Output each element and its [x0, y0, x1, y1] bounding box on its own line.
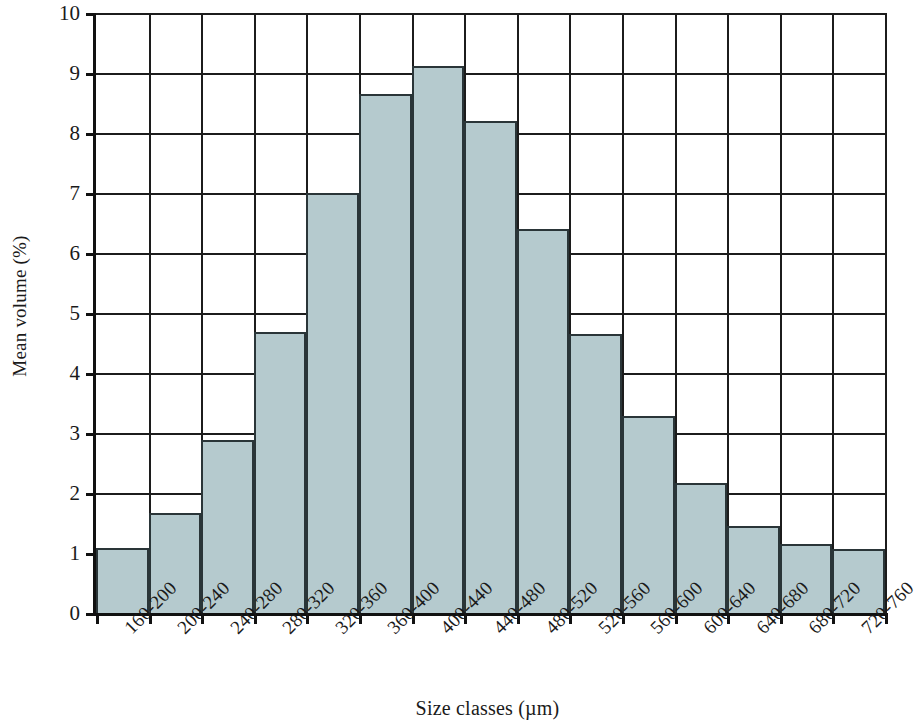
y-tick-mark: [86, 493, 96, 496]
y-axis-tick-label: 3: [40, 423, 80, 444]
y-tick-mark: [86, 313, 96, 316]
y-tick-mark: [86, 133, 96, 136]
y-axis-tick-label: 5: [40, 303, 80, 324]
bar: [517, 229, 570, 613]
x-axis-title: Size classes (µm): [93, 697, 882, 720]
y-axis-tick-label: 4: [40, 363, 80, 384]
y-axis-title: Mean volume (%): [9, 156, 31, 456]
bar: [622, 416, 675, 613]
x-axis-tick-labels: 160-200200-240240-280280-320320-360360-4…: [93, 613, 882, 703]
y-tick-mark: [86, 553, 96, 556]
y-axis-tick-label: 2: [40, 483, 80, 504]
y-axis-tick-label: 9: [40, 63, 80, 84]
bar: [569, 334, 622, 613]
y-tick-mark: [86, 433, 96, 436]
plot-area: [93, 13, 885, 616]
bar: [306, 193, 359, 613]
y-axis-tick-label: 1: [40, 543, 80, 564]
y-tick-mark: [86, 13, 96, 16]
y-axis-tick-labels: 012345678910: [40, 0, 80, 726]
y-axis-tick-label: 6: [40, 243, 80, 264]
y-tick-mark: [86, 253, 96, 256]
bar: [359, 94, 412, 613]
y-axis-tick-label: 0: [40, 603, 80, 624]
gridline-vertical: [885, 13, 887, 613]
y-tick-mark: [86, 73, 96, 76]
bar: [412, 66, 465, 613]
bar: [254, 332, 307, 613]
y-axis-tick-label: 7: [40, 183, 80, 204]
y-axis-tick-label: 10: [40, 3, 80, 24]
y-tick-mark: [86, 193, 96, 196]
y-axis-tick-label: 8: [40, 123, 80, 144]
bar-series: [96, 13, 885, 613]
y-tick-mark: [86, 373, 96, 376]
bar: [464, 121, 517, 613]
